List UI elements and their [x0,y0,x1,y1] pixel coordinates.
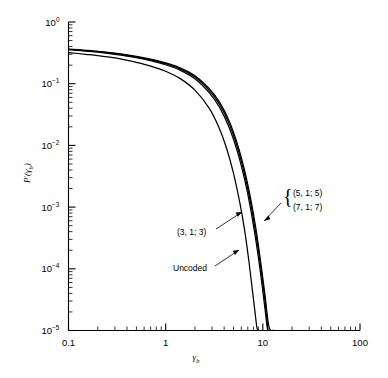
chart-svg: 10010−110−210−310−410−5 0.1110100 P′(γb)… [0,0,388,378]
x-tick-label: 10 [258,337,269,348]
annotation-label-3-1-3: (3, 1; 3) [177,227,206,237]
brace-glyph: { [283,185,293,207]
x-tick-label: 0.1 [62,337,75,348]
annotation-label-uncoded: Uncoded [173,263,207,273]
chart-figure: 10010−110−210−310−410−5 0.1110100 P′(γb)… [0,0,388,378]
annotation-label-5-1-5: (5, 1; 5) [293,188,322,198]
x-tick-label: 1 [163,337,168,348]
y-axis-title: P′(γb) [22,163,34,184]
y-title-paren-close: ) [22,163,32,167]
annotation-label-7-1-7: (7, 1; 7) [293,202,322,212]
chart-background [0,0,388,378]
svg-text:P′(γb): P′(γb) [22,163,34,184]
x-tick-label: 100 [352,337,368,348]
